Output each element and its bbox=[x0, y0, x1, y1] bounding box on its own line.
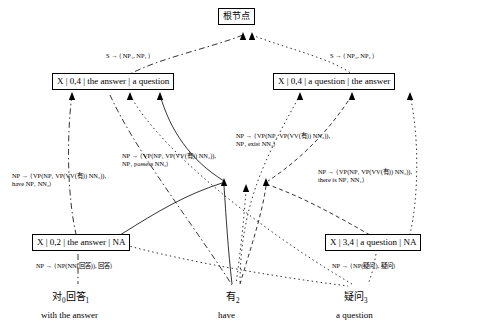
rule-label-np-question: NP → ⟨ NP(疑问), 疑问⟩ bbox=[332, 262, 395, 270]
node-right-span-0-4[interactable]: X | 0,4 | a question | the answer bbox=[273, 73, 395, 90]
node-right-span-0-4-label: X | 0,4 | a question | the answer bbox=[278, 76, 390, 86]
gloss-3: a question bbox=[336, 310, 373, 320]
gloss-1: with the answer bbox=[41, 310, 98, 320]
node-span-3-4[interactable]: X | 3,4 | a question | NA bbox=[325, 234, 421, 251]
node-root[interactable]: 根节点 bbox=[218, 8, 255, 25]
word-3: 疑问3 bbox=[344, 288, 368, 305]
node-span-3-4-label: X | 3,4 | a question | NA bbox=[330, 237, 416, 247]
rule-label-s-left: S → ⟨ NP₁, NP₁ ⟩ bbox=[106, 52, 150, 60]
word-2: 有2 bbox=[226, 288, 240, 305]
rule-label-np-answer: NP → ⟨ NP(NN(回答)), 回答⟩ bbox=[36, 262, 112, 270]
node-root-label: 根节点 bbox=[223, 11, 250, 21]
node-span-0-2[interactable]: X | 0,2 | the answer | NA bbox=[32, 234, 130, 251]
node-span-0-2-label: X | 0,2 | the answer | NA bbox=[37, 237, 125, 247]
edge-layer bbox=[0, 0, 490, 331]
rule-label-np-exist: NP → ⟨ VP(NP₁ VP(VV(有)) NN₂)), NP₁ exist… bbox=[236, 132, 330, 148]
gloss-2: have bbox=[218, 310, 235, 320]
node-left-span-0-4-label: X | 0,4 | the answer | a question bbox=[57, 76, 169, 86]
rule-label-np-possess: NP → ⟨ VP(NP₁ VP(VV(有)) NN₂)), NP₁ posse… bbox=[122, 152, 216, 168]
node-left-span-0-4[interactable]: X | 0,4 | the answer | a question bbox=[52, 73, 174, 90]
rule-label-np-there-is: NP → ⟨ VP(NP₁ VP(VV(有)) NN₂)), there is … bbox=[318, 168, 412, 184]
rule-label-np-have: NP → ⟨ VP(NP₁ VP(VV(有)) NN₂)), have NP₁ … bbox=[12, 172, 106, 188]
derivation-diagram: 根节点 X | 0,4 | the answer | a question X … bbox=[0, 0, 490, 331]
rule-label-s-right: S → ⟨ NP₂, NP₂ ⟩ bbox=[330, 52, 374, 60]
word-1: 对0回答1 bbox=[52, 288, 89, 305]
